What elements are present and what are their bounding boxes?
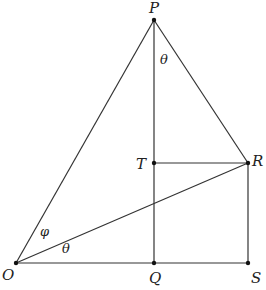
- label-O: O: [2, 266, 14, 284]
- point-R: [246, 161, 250, 165]
- label-T: T: [136, 155, 147, 173]
- point-T: [152, 161, 156, 165]
- point-Q: [152, 261, 156, 265]
- label-R: R: [251, 152, 263, 170]
- label-P: P: [148, 0, 160, 17]
- point-S: [246, 261, 250, 265]
- segment-PR: [154, 20, 248, 163]
- segment-OR: [16, 163, 248, 263]
- angle-theta-at-P: θ: [160, 52, 168, 67]
- angle-theta-at-O: θ: [62, 241, 70, 256]
- geometry-diagram: P T R O Q S θ φ θ: [0, 0, 266, 290]
- point-O: [14, 261, 18, 265]
- label-S: S: [251, 269, 261, 287]
- segment-OP: [16, 20, 154, 263]
- angle-phi-at-O: φ: [40, 224, 50, 239]
- label-Q: Q: [149, 269, 161, 287]
- point-P: [152, 18, 156, 22]
